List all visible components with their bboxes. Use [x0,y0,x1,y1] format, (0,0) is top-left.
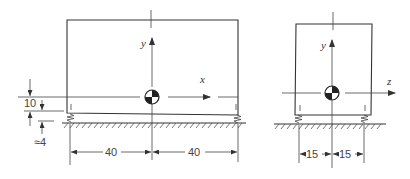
spring-icon-left [295,115,302,123]
end-block [295,24,372,115]
y-axis-label: y [140,37,146,49]
dim-side-left: 40 [105,146,117,158]
dim-end-right: 15 [339,148,351,160]
spring-mounted-block-diagram: y x 40 40 [0,0,410,179]
ground-hatch-end [275,124,381,129]
side-view: y x 40 40 [18,10,246,165]
x-axis-label: x [199,73,205,85]
dim-spring-height: ≈4 [34,136,46,148]
end-view: y z 15 15 [274,12,395,168]
center-of-gravity-icon [325,86,339,100]
dim-cg-height: 10 [24,97,36,109]
y-axis-label: y [320,39,326,51]
ground-hatch-side [64,123,242,128]
center-of-gravity-icon [145,90,159,104]
spring-icon-right [234,115,241,123]
spring-icon-left [67,114,74,122]
spring-icon-right [361,115,368,123]
z-axis-label: z [386,75,392,87]
dim-end-left: 15 [306,148,318,160]
dim-side-right: 40 [188,146,200,158]
